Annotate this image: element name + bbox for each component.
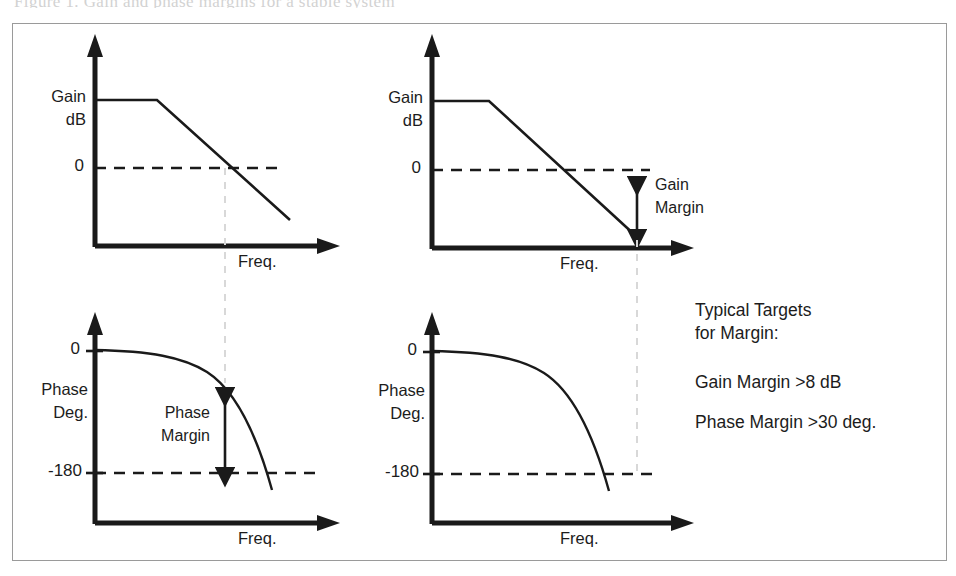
gain-left-x-label: Freq. [238,253,277,270]
gain-left-zero-tick-label: 0 [48,157,84,175]
notes-line-3: Gain Margin >8 dB [695,373,841,391]
gain-margin-annotation-line1: Gain [655,177,735,194]
cut-off-caption: Figure 1. Gain and phase margins for a s… [14,0,934,8]
phase-right-y-label-line2: Deg. [353,405,425,422]
phase-right-minus180-tick-label: -180 [363,463,419,481]
notes-line-1: Typical Targets [695,301,811,319]
notes-line-2: for Margin: [695,324,779,342]
gain-right-x-label: Freq. [560,255,599,272]
phase-left-y-label-line1: Phase [16,381,88,398]
phase-left-y-label-line2: Deg. [16,404,88,421]
phase-left-minus180-tick-label: -180 [26,462,82,480]
figure-root: Figure 1. Gain and phase margins for a s… [0,0,956,576]
notes-line-4: Phase Margin >30 deg. [695,413,876,431]
phase-right-y-label-line1: Phase [353,382,425,399]
gain-margin-annotation-line2: Margin [655,200,745,217]
phase-right-zero-tick-label: 0 [385,341,417,359]
phase-right-x-label: Freq. [560,530,599,547]
gain-left-y-label-line2: dB [18,111,86,128]
gain-right-zero-tick-label: 0 [385,159,421,177]
gain-right-y-label-line2: dB [355,112,423,129]
figure-border [12,23,947,561]
gain-left-y-label-line1: Gain [18,88,86,105]
phase-left-x-label: Freq. [238,530,277,547]
phase-margin-annotation-line2: Margin [118,428,210,445]
gain-right-y-label-line1: Gain [355,89,423,106]
phase-left-zero-tick-label: 0 [48,340,80,358]
phase-margin-annotation-line1: Phase [118,405,210,422]
